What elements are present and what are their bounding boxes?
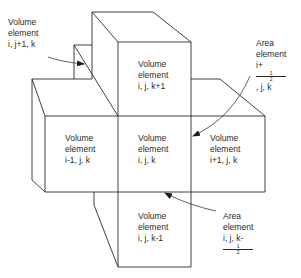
arrow-area-right-face — [193, 76, 250, 136]
label-volume-bottom: Volume element i, j, k-1 — [138, 211, 168, 244]
arrow-area-bottom-face — [165, 193, 216, 211]
label-volume-top: Volume element i, j, k+1 — [138, 59, 168, 92]
arrow-back-box — [48, 57, 84, 64]
label-area-right-face: Area element i+12, j, k — [256, 38, 286, 93]
area-right-face-index: i+12, j, k — [256, 60, 286, 93]
label-volume-right: Volume element i+1, j, k — [210, 133, 240, 166]
label-volume-back: Volume element i, j+1, k — [8, 17, 38, 50]
label-area-bottom-face: Area element i, j, k-12 — [223, 211, 253, 255]
label-volume-center: Volume element i, j, k — [138, 133, 168, 166]
fraction-half: 12 — [256, 71, 286, 82]
label-volume-left: Volume element i-1, j, k — [65, 133, 95, 166]
back-box-outline — [74, 45, 118, 116]
fraction-half: 12 — [223, 244, 253, 255]
area-bottom-face-index: i, j, k-12 — [223, 233, 253, 255]
